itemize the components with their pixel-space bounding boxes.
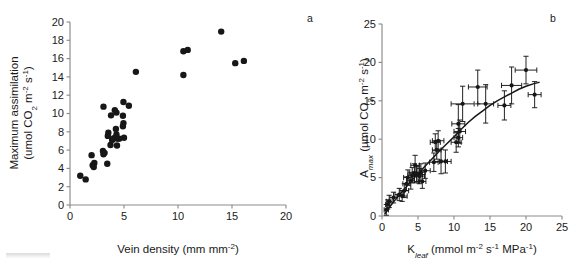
caption-remnant [6, 253, 50, 258]
panel-b-x-axis-title: Kleaf (mmol m-2 s-1 MPa-1) [407, 242, 537, 260]
data-point-marker [456, 136, 460, 140]
panel-b-y-axis-title: Amax (µmol CO2 m-2 s-1) [357, 58, 375, 178]
panel-b-label: b [550, 12, 556, 24]
data-point-marker [454, 140, 458, 144]
data-point-marker [404, 182, 408, 186]
data-point-marker [406, 176, 410, 180]
data-point-marker [387, 199, 391, 203]
b-y-tick-label: 25 [364, 18, 376, 30]
data-point-marker [484, 102, 488, 106]
data-point-marker [476, 85, 480, 89]
data-point-marker [524, 68, 528, 72]
b-x-tick-label: 15 [484, 221, 496, 233]
data-point-marker [502, 103, 506, 107]
data-point-marker [391, 195, 395, 199]
data-point-marker [436, 139, 440, 143]
data-point-marker [419, 170, 423, 174]
panel-b-error-bars [384, 56, 541, 215]
data-point-marker [423, 169, 427, 173]
data-point-marker [510, 83, 514, 87]
b-y-tick-label: 5 [370, 171, 376, 183]
data-point-marker [432, 160, 436, 164]
b-x-tick-label: 0 [379, 221, 385, 233]
data-point-marker [456, 122, 460, 126]
figure-root: 0246810121416182005101520 Maximum assimi… [0, 0, 581, 263]
data-point-marker [409, 179, 413, 183]
data-point-marker [435, 148, 439, 152]
b-x-tick-label: 10 [448, 221, 460, 233]
data-point-marker [458, 129, 462, 133]
data-point-marker [417, 174, 421, 178]
data-point-marker [420, 179, 424, 183]
data-point-marker [384, 208, 388, 212]
b-x-tick-label: 5 [415, 221, 421, 233]
data-point-marker [400, 194, 404, 198]
data-point-marker [402, 189, 406, 193]
b-y-tick-label: 0 [370, 210, 376, 222]
data-point-marker [413, 163, 417, 167]
b-x-tick-label: 20 [520, 221, 532, 233]
data-point-marker [461, 102, 465, 106]
data-point-marker [439, 159, 443, 163]
b-x-tick-label: 25 [556, 221, 568, 233]
data-point-marker [533, 93, 537, 97]
panel-b-scatter-chart: 05101520250510152025 Amax (µmol CO2 m-2 … [0, 0, 581, 263]
data-point-marker [443, 159, 447, 163]
